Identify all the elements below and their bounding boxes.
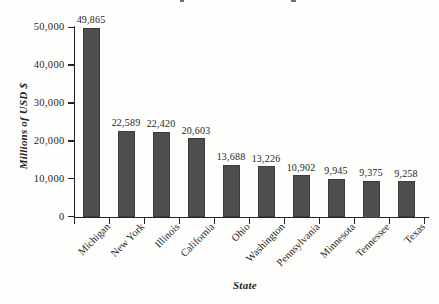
x-axis-title: State — [205, 279, 285, 291]
x-tick-label-california: California — [179, 221, 218, 260]
bar-value-label-texas: 9,258 — [376, 168, 436, 180]
y-tick-label: 40,000 — [23, 59, 65, 71]
x-tick-label-minnesota: Minnesota — [318, 221, 358, 261]
x-tick-label-michigan: Michigan — [76, 221, 113, 258]
x-tick — [424, 218, 425, 224]
x-tick — [144, 218, 145, 224]
x-tick-label-ohio: Ohio — [229, 221, 252, 244]
x-tick — [179, 218, 180, 224]
x-tick — [319, 218, 320, 224]
y-tick — [68, 27, 74, 28]
y-tick — [68, 102, 74, 103]
y-tick-label: 10,000 — [23, 173, 65, 185]
y-tick-label: 30,000 — [23, 97, 65, 109]
x-tick-label-texas: Texas — [402, 221, 428, 247]
bar-washington — [258, 166, 275, 217]
y-tick-label: 50,000 — [23, 21, 65, 33]
bar-ohio — [223, 165, 240, 218]
x-tick — [354, 218, 355, 224]
scan-speck — [291, 0, 296, 2]
y-tick-label: 20,000 — [23, 135, 65, 147]
bar-illinois — [153, 132, 170, 218]
x-tick — [214, 218, 215, 224]
x-tick — [389, 218, 390, 224]
y-tick — [68, 178, 74, 179]
x-tick-label-tennessee: Tennessee — [354, 221, 393, 260]
bar-tennessee — [363, 181, 380, 218]
y-tick-label: 0 — [23, 211, 65, 223]
bar-value-label-california: 20,603 — [166, 125, 226, 137]
bar-chart: Millions of USD $ State 010,00020,00030,… — [0, 0, 439, 304]
bar-texas — [398, 181, 415, 217]
bar-minnesota — [328, 179, 345, 218]
x-tick — [284, 218, 285, 224]
y-tick — [68, 64, 74, 65]
x-tick-label-illinois: Illinois — [153, 221, 183, 251]
x-tick-label-new-york: New York — [109, 221, 148, 260]
y-tick — [68, 140, 74, 141]
x-tick — [109, 218, 110, 224]
scan-speck — [180, 0, 184, 2]
x-tick — [74, 218, 75, 224]
bar-pennsylvania — [293, 175, 310, 217]
bar-value-label-michigan: 49,865 — [61, 14, 121, 26]
y-axis — [74, 26, 76, 218]
x-tick — [249, 218, 250, 224]
bar-new-york — [118, 131, 135, 218]
